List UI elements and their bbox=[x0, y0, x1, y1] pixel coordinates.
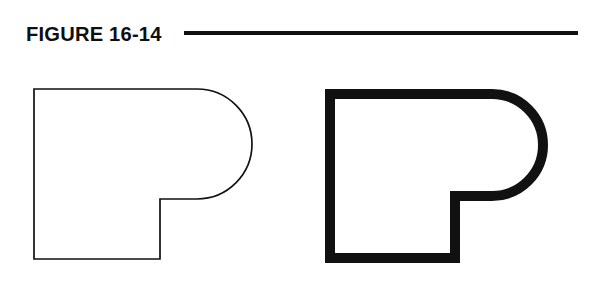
thin-outline-p-shape bbox=[34, 89, 252, 259]
thick-outline-p-shape bbox=[330, 94, 543, 258]
figure-rule-divider bbox=[184, 31, 578, 35]
figure-label: FIGURE 16-14 bbox=[26, 23, 162, 44]
figure-page: FIGURE 16-14 bbox=[0, 0, 593, 308]
figure-caption-header: FIGURE 16-14 bbox=[26, 17, 578, 49]
